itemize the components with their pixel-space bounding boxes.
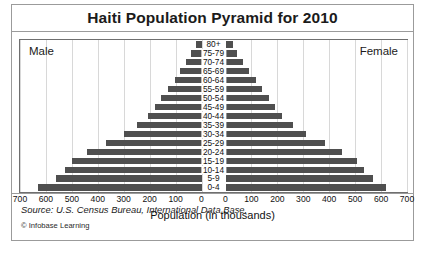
plot-area: Male Female 80+75-7970-7465-6960-6455-59…	[19, 39, 408, 193]
bar-female	[226, 86, 262, 92]
pyramid-rows: 80+75-7970-7465-6960-6455-5950-5445-4940…	[20, 40, 407, 192]
bar-female	[226, 149, 343, 155]
bar-female	[226, 167, 365, 173]
page-title: Haiti Population Pyramid for 2010	[87, 9, 338, 27]
bar-male	[196, 41, 202, 47]
bar-female	[226, 140, 325, 146]
bar-female	[226, 77, 256, 83]
bar-male	[161, 95, 201, 101]
bar-female	[226, 131, 307, 137]
bar-female	[226, 104, 276, 110]
bar-female	[226, 184, 386, 190]
pyramid-row: 30-34	[20, 131, 407, 137]
pyramid-row: 75-79	[20, 50, 407, 56]
source-text: Source: U.S. Census Bureau, Internationa…	[21, 204, 247, 215]
pyramid-row: 0-4	[20, 184, 407, 190]
bar-male	[168, 86, 201, 92]
bar-male	[106, 140, 202, 146]
bar-male	[175, 77, 202, 83]
pyramid-row: 35-39	[20, 122, 407, 128]
bar-male	[56, 175, 201, 181]
pyramid-row: 45-49	[20, 104, 407, 110]
pyramid-row: 25-29	[20, 140, 407, 146]
bar-female	[226, 175, 373, 181]
bar-male	[137, 122, 202, 128]
pyramid-row: 10-14	[20, 167, 407, 173]
bar-female	[226, 41, 233, 47]
source-band: Source: U.S. Census Bureau, Internationa…	[12, 193, 413, 241]
bar-male	[180, 68, 201, 74]
pyramid-row: 70-74	[20, 59, 407, 65]
bar-male	[124, 131, 202, 137]
pyramid-row: 50-54	[20, 95, 407, 101]
bar-male	[87, 149, 201, 155]
pyramid-row: 60-64	[20, 77, 407, 83]
bar-male	[65, 167, 201, 173]
figure-container: Haiti Population Pyramid for 2010 Male F…	[11, 4, 414, 241]
pyramid-row: 20-24	[20, 149, 407, 155]
bar-female	[226, 113, 283, 119]
pyramid-row: 15-19	[20, 158, 407, 164]
pyramid-row: 55-59	[20, 86, 407, 92]
bar-male	[38, 184, 202, 190]
bar-female	[226, 68, 250, 74]
bar-female	[226, 50, 238, 56]
bar-male	[148, 113, 201, 119]
age-group-label: 0-4	[206, 183, 222, 191]
title-band: Haiti Population Pyramid for 2010	[12, 5, 413, 32]
bar-female	[226, 95, 270, 101]
bar-female	[226, 59, 244, 65]
pyramid-row: 40-44	[20, 113, 407, 119]
pyramid-row: 80+	[20, 41, 407, 47]
bar-female	[226, 122, 294, 128]
plot-inner: Male Female 80+75-7970-7465-6960-6455-59…	[20, 40, 407, 192]
copyright-text: © Infobase Learning	[21, 221, 90, 230]
bar-female	[226, 158, 358, 164]
bar-male	[72, 158, 202, 164]
gridline	[407, 40, 408, 192]
bar-male	[186, 59, 202, 65]
pyramid-row: 5-9	[20, 175, 407, 181]
pyramid-row: 65-69	[20, 68, 407, 74]
bar-male	[155, 104, 202, 110]
